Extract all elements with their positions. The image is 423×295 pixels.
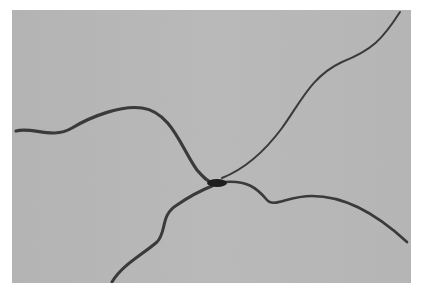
strand-junction [207, 179, 227, 187]
micrograph-canvas [12, 10, 411, 283]
micrograph-photo [12, 10, 411, 283]
